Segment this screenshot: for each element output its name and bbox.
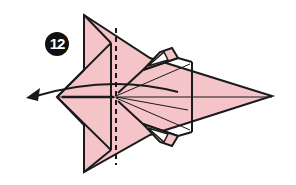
paper-body (57, 15, 272, 172)
origami-figure (0, 0, 296, 185)
origami-step-diagram: 12 (0, 0, 296, 185)
step-number-badge: 12 (45, 32, 69, 56)
